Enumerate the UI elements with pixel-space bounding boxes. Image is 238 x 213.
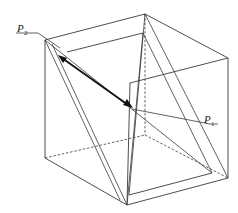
svg-text:P: P	[203, 113, 211, 125]
cube-hidden-edges	[45, 14, 228, 178]
cube-diagram: P 2 P 1	[0, 0, 238, 213]
svg-text:P: P	[16, 22, 24, 34]
svg-text:2: 2	[24, 29, 28, 37]
svg-text:1: 1	[211, 120, 215, 128]
leader-lines	[16, 33, 218, 124]
label-p2: P 2	[16, 22, 28, 37]
arrowhead-mid	[123, 99, 133, 108]
label-p1: P 1	[203, 113, 215, 128]
